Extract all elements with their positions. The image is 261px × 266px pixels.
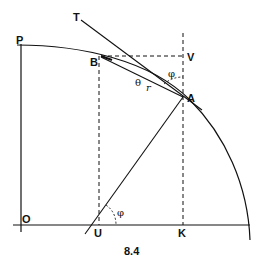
label-K: K: [178, 227, 186, 239]
figure-caption: 8.4: [124, 245, 140, 257]
geometry-figure: P B V A T O U K φ θ r φ 8.4: [0, 0, 261, 266]
label-O: O: [22, 213, 31, 225]
label-phi-top: φ: [168, 68, 175, 79]
label-B: B: [90, 56, 98, 68]
angle-arc-bottom: [106, 205, 116, 225]
curve-arc: [17, 45, 250, 240]
normal-UA: [85, 97, 183, 234]
label-A: A: [187, 92, 195, 104]
label-V: V: [187, 51, 195, 63]
label-r: r: [146, 82, 152, 93]
label-theta: θ: [135, 77, 141, 88]
label-P: P: [16, 34, 23, 46]
label-phi-bottom: φ: [117, 207, 124, 218]
label-T: T: [73, 11, 80, 23]
label-U: U: [94, 227, 102, 239]
diagram-canvas: P B V A T O U K φ θ r φ 8.4: [0, 0, 261, 266]
